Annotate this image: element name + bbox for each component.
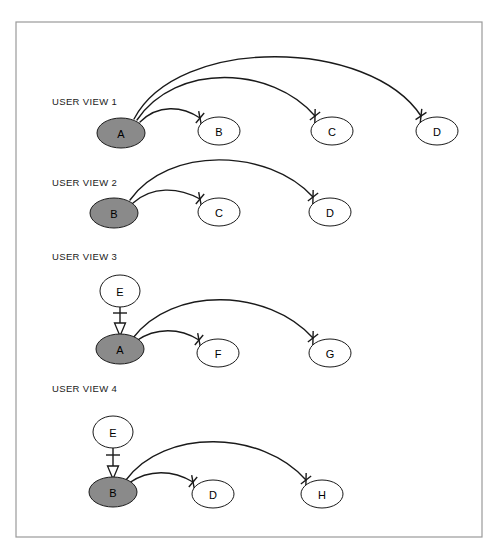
node-label-b: B	[215, 126, 222, 138]
view-group-user-view-3: USER VIEW 3EAFG	[52, 251, 351, 367]
edge-arc-line	[126, 442, 306, 480]
node-v2-b[interactable]: B	[90, 198, 138, 228]
node-label-b: B	[110, 208, 117, 220]
node-label-e: E	[109, 427, 116, 439]
node-label-c: C	[215, 207, 223, 219]
view-label-user-view-2: USER VIEW 2	[52, 177, 117, 188]
node-v3-a[interactable]: A	[96, 334, 144, 364]
node-v4-e[interactable]: E	[93, 416, 133, 448]
view-label-user-view-3: USER VIEW 3	[52, 251, 117, 262]
edge-v2-b-c	[133, 190, 208, 207]
node-v4-d[interactable]: D	[192, 480, 234, 508]
node-label-a: A	[117, 128, 125, 140]
node-label-g: G	[326, 348, 335, 360]
edge-v3-a-g	[133, 300, 322, 347]
node-label-d: D	[433, 126, 441, 138]
node-v2-c[interactable]: C	[198, 198, 240, 226]
node-v1-b[interactable]: B	[198, 117, 240, 145]
node-label-d: D	[209, 489, 217, 501]
node-label-a: A	[116, 344, 124, 356]
edge-arc-line	[137, 78, 315, 121]
edge-arc-line	[133, 300, 313, 338]
node-label-f: F	[215, 348, 222, 360]
node-v3-g[interactable]: G	[309, 339, 351, 367]
diagram-canvas: USER VIEW 1ABCDUSER VIEW 2BCDUSER VIEW 3…	[0, 0, 500, 550]
node-label-b: B	[109, 487, 116, 499]
edge-arc-line	[136, 331, 199, 341]
node-v1-a[interactable]: A	[97, 118, 145, 148]
view-group-user-view-4: USER VIEW 4EBDH	[52, 383, 343, 508]
edge-v4-b-d	[129, 473, 201, 491]
views-layer: USER VIEW 1ABCDUSER VIEW 2BCDUSER VIEW 3…	[52, 57, 458, 508]
view-label-user-view-4: USER VIEW 4	[52, 383, 117, 394]
view-group-user-view-2: USER VIEW 2BCD	[52, 160, 351, 228]
edge-v4-e-b	[106, 448, 120, 479]
edge-arc-line	[130, 160, 313, 200]
edge-arc-line	[140, 109, 200, 122]
user-views-diagram: USER VIEW 1ABCDUSER VIEW 2BCDUSER VIEW 3…	[0, 0, 500, 550]
node-v2-d[interactable]: D	[309, 198, 351, 226]
edge-v1-a-c	[137, 78, 324, 125]
edge-arc-line	[129, 473, 193, 483]
node-v3-e[interactable]: E	[100, 275, 140, 307]
node-label-e: E	[116, 286, 123, 298]
edge-v3-e-a	[113, 307, 127, 336]
edge-arc-line	[133, 190, 200, 203]
edge-v1-a-b	[140, 109, 208, 127]
edge-v3-a-f	[136, 331, 207, 349]
node-v1-d[interactable]: D	[416, 117, 458, 145]
view-label-user-view-1: USER VIEW 1	[52, 96, 117, 107]
node-label-h: H	[318, 489, 326, 501]
node-label-c: C	[328, 126, 336, 138]
node-v4-b[interactable]: B	[89, 477, 137, 507]
node-v4-h[interactable]: H	[301, 480, 343, 508]
node-label-d: D	[326, 207, 334, 219]
node-v3-f[interactable]: F	[197, 339, 239, 367]
node-v1-c[interactable]: C	[311, 117, 353, 145]
view-group-user-view-1: USER VIEW 1ABCD	[52, 57, 458, 148]
